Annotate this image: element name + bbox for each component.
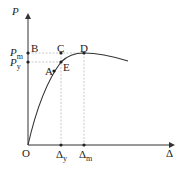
delta-y-tick-label: Δy bbox=[56, 149, 67, 163]
diagram-canvas bbox=[0, 0, 185, 170]
point-c-label: C bbox=[57, 43, 64, 54]
point-e-label: E bbox=[63, 62, 70, 73]
guide-lines bbox=[28, 53, 84, 145]
point-a-label: A bbox=[45, 66, 53, 77]
point-b-label: B bbox=[31, 43, 38, 54]
load-curve bbox=[28, 53, 128, 145]
point-d-label: D bbox=[80, 43, 88, 54]
py-tick-label: Py bbox=[10, 57, 21, 71]
delta-m-tick-label: Δm bbox=[79, 149, 92, 163]
x-axis-label: Δ bbox=[166, 148, 173, 159]
origin-label: O bbox=[22, 148, 30, 159]
load-displacement-diagram: P O Δ Pm Py Δy Δm A B C D E bbox=[0, 0, 185, 170]
y-axis-label: P bbox=[12, 6, 19, 17]
curve-points bbox=[26, 51, 85, 146]
